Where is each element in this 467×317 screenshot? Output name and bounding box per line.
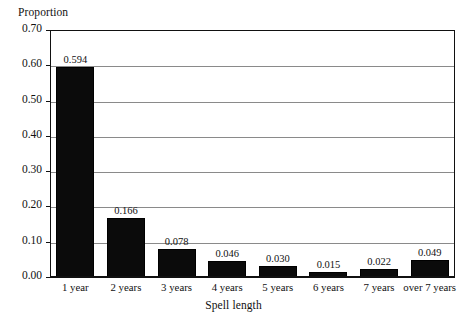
x-axis-tick-labels: 1 year2 years3 years4 years5 years6 year… (50, 281, 455, 297)
bar-slot: 0.046 (202, 30, 253, 277)
bar-value-label: 0.015 (317, 259, 341, 270)
x-axis-line (50, 276, 455, 278)
x-axis-tick-label: 6 years (313, 281, 344, 293)
bar-value-label: 0.594 (64, 54, 88, 65)
x-axis-tick-label: 1 year (62, 281, 89, 293)
bar-slot: 0.015 (303, 30, 354, 277)
bar-slot: 0.049 (404, 30, 455, 277)
bar-chart: Proportion 0.000.100.200.300.400.500.600… (0, 0, 467, 317)
bar[interactable] (208, 261, 246, 277)
x-axis-title: Spell length (0, 299, 467, 311)
x-axis-tick-label: over 7 years (403, 281, 456, 293)
bar-value-label: 0.022 (367, 256, 391, 267)
y-axis-tick-label: 0.10 (22, 234, 42, 246)
y-axis-title: Proportion (18, 6, 68, 18)
y-axis-tick-label: 0.20 (22, 198, 42, 210)
bar-value-label: 0.046 (215, 248, 239, 259)
x-axis-tick-label: 7 years (364, 281, 395, 293)
bar-slot: 0.594 (50, 30, 101, 277)
bar[interactable] (107, 218, 145, 277)
y-axis-tick-label: 0.40 (22, 128, 42, 140)
bar-slot: 0.022 (354, 30, 405, 277)
bar-value-label: 0.049 (418, 247, 442, 258)
bar[interactable] (56, 67, 94, 277)
bar-slot: 0.166 (101, 30, 152, 277)
x-axis-tick-label: 5 years (262, 281, 293, 293)
y-axis-tick-label: 0.00 (22, 269, 42, 281)
bar-value-label: 0.166 (114, 205, 138, 216)
x-axis-tick-label: 4 years (212, 281, 243, 293)
y-axis-tick-label: 0.50 (22, 93, 42, 105)
y-axis-tick-label: 0.70 (22, 22, 42, 34)
bar-value-label: 0.078 (165, 236, 189, 247)
bar-slot: 0.030 (253, 30, 304, 277)
bar[interactable] (158, 249, 196, 277)
x-axis-tick-label: 3 years (161, 281, 192, 293)
bar-value-label: 0.030 (266, 253, 290, 264)
bar-slot: 0.078 (151, 30, 202, 277)
y-axis-tick-label: 0.30 (22, 163, 42, 175)
bars-group: 0.5940.1660.0780.0460.0300.0150.0220.049 (50, 30, 455, 277)
x-axis-tick-label: 2 years (110, 281, 141, 293)
y-axis-tick-label: 0.60 (22, 57, 42, 69)
y-axis: 0.000.100.200.300.400.500.600.70 (0, 30, 50, 277)
bar[interactable] (411, 260, 449, 277)
